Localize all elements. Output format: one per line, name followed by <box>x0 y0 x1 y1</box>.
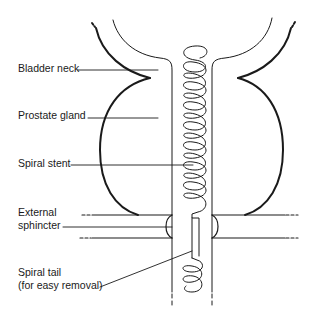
label-external-sphincter-line2: sphincter <box>18 219 61 232</box>
label-external-sphincter-line1: External <box>18 206 61 219</box>
label-spiral-tail-line2: (for easy removal) <box>18 279 103 292</box>
bladder-inner-wall-right <box>212 18 272 292</box>
label-external-sphincter: External sphincter <box>18 206 61 231</box>
bladder-outer-top-dash-left <box>92 23 95 27</box>
label-prostate-gland: Prostate gland <box>18 109 86 122</box>
spiral-tail-coil <box>183 258 202 292</box>
leader-spiral-tail <box>100 251 192 287</box>
spiral-stent-coil <box>183 46 206 256</box>
label-spiral-stent: Spiral stent <box>18 157 71 170</box>
label-spiral-tail: Spiral tail (for easy removal) <box>18 266 103 291</box>
sphincter-bulge-right <box>212 215 218 238</box>
prostate-right-lobe <box>238 78 283 215</box>
label-bladder-neck: Bladder neck <box>18 62 79 75</box>
sphincter-bulge-left <box>166 215 172 238</box>
bladder-outer-top-dash-right <box>292 22 295 27</box>
prostate-left-lobe <box>100 78 150 215</box>
label-spiral-tail-line1: Spiral tail <box>18 266 103 279</box>
bladder-inner-wall-left <box>113 20 172 292</box>
